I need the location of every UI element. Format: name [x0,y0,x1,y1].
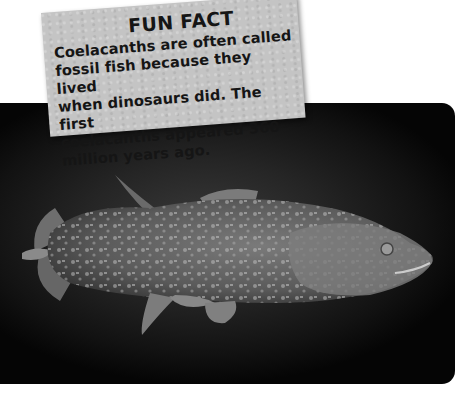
fun-fact-card: FUN FACT Coelacanths are often called fo… [41,0,306,137]
fun-fact-text: Coelacanths are often called fossil fish… [53,26,300,169]
